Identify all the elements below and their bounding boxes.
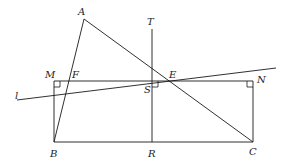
- label-R: R: [147, 148, 156, 159]
- label-C: C: [249, 146, 257, 157]
- label-B: B: [49, 148, 57, 159]
- segment-AB: [54, 19, 84, 142]
- label-S: S: [144, 84, 151, 95]
- geometry-diagram: A T M F E N S l B R C: [0, 0, 289, 162]
- label-E: E: [168, 69, 177, 80]
- right-angle-N: [247, 81, 253, 87]
- label-F: F: [71, 69, 80, 80]
- right-angle-S: [152, 81, 158, 87]
- label-A: A: [77, 6, 85, 17]
- label-N: N: [256, 74, 267, 85]
- right-angle-M: [54, 81, 60, 87]
- label-T: T: [147, 16, 155, 27]
- label-M: M: [44, 69, 56, 80]
- segment-AC: [84, 19, 253, 142]
- label-l: l: [15, 90, 18, 101]
